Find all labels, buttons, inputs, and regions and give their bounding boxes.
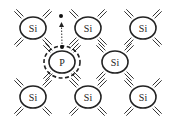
dotted-arrow-line	[62, 26, 63, 44]
bond-line	[71, 109, 78, 116]
bond-line	[14, 11, 21, 18]
bond-line	[98, 9, 105, 16]
bond-line	[45, 11, 52, 18]
silicon-atom: Si	[20, 86, 46, 108]
atom-label: Si	[139, 23, 148, 34]
bond-line	[153, 109, 160, 116]
bond-line	[155, 11, 162, 18]
atom-label: Si	[29, 23, 38, 34]
bond-line	[153, 40, 160, 47]
bond-line	[100, 80, 107, 87]
silicon-atom: Si	[75, 17, 101, 39]
bond-line	[69, 107, 76, 114]
bond-line	[71, 9, 78, 16]
bond-line	[71, 40, 78, 47]
bond-line	[69, 80, 76, 87]
atom-label: Si	[139, 92, 148, 103]
bond-line	[155, 80, 162, 87]
bond-line	[98, 74, 105, 81]
atom-label: P	[59, 57, 65, 68]
bond-line	[96, 72, 103, 79]
silicon-atom: Si	[20, 17, 46, 39]
bond-line	[100, 38, 107, 45]
bond-line	[155, 38, 162, 45]
bond-line	[124, 38, 131, 45]
silicon-atom: Si	[102, 51, 128, 73]
bond-line	[98, 78, 105, 85]
bond-line	[69, 38, 76, 45]
silicon-atom: Si	[130, 86, 156, 108]
bond-line	[127, 72, 134, 79]
bond-line	[124, 11, 131, 18]
free-electron-dot	[59, 14, 63, 18]
bond-line	[100, 107, 107, 114]
bond-line	[14, 80, 21, 87]
silicon-atom: Si	[75, 86, 101, 108]
atom-label: Si	[111, 57, 120, 68]
atom-label: Si	[84, 23, 93, 34]
bond-line	[43, 109, 50, 116]
bound-electron-dot	[60, 45, 64, 49]
silicon-lattice-diagram: SiSiSiPSiSiSiSi	[0, 0, 175, 126]
bond-line	[74, 72, 81, 79]
bond-line	[155, 107, 162, 114]
bond-line	[126, 109, 133, 116]
bond-line	[45, 80, 52, 87]
bond-line	[16, 109, 23, 116]
bond-line	[16, 40, 23, 47]
bond-line	[127, 45, 134, 52]
bond-line	[14, 107, 21, 114]
bond-line	[16, 9, 23, 16]
bond-line	[153, 78, 160, 85]
bond-line	[43, 9, 50, 16]
atoms: SiSiSiPSiSiSiSi	[20, 17, 156, 108]
bond-line	[124, 80, 131, 87]
bond-line	[126, 9, 133, 16]
atom-label: Si	[84, 92, 93, 103]
bond-line	[69, 11, 76, 18]
bond-line	[124, 107, 131, 114]
bond-line	[153, 9, 160, 16]
silicon-atom: Si	[130, 17, 156, 39]
free-electron	[59, 14, 64, 49]
bond-line	[16, 78, 23, 85]
bond-line	[14, 38, 21, 45]
arrow-head-icon	[59, 22, 64, 27]
atom-label: Si	[29, 92, 38, 103]
bond-line	[100, 11, 107, 18]
bond-line	[96, 45, 103, 52]
bond-line	[98, 109, 105, 116]
bond-line	[45, 107, 52, 114]
